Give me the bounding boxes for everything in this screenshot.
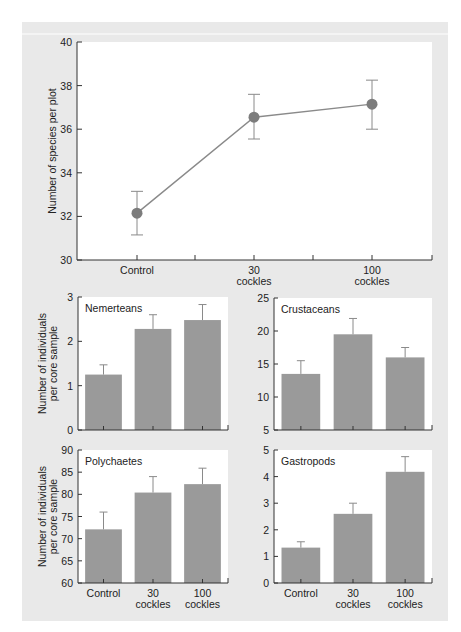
y-tick-label: 5 (263, 424, 269, 436)
y-tick-label: 40 (60, 36, 72, 48)
y-tick-label: 0 (67, 424, 73, 436)
bar (282, 548, 321, 583)
x-category-label: Control (284, 587, 318, 599)
y-tick-label: 65 (61, 555, 73, 567)
gastropods-bar-chart: Gastropods012345Control30cockles100cockl… (263, 444, 432, 610)
panel-title: Polychaetes (85, 455, 142, 467)
x-category-label: cockles (185, 598, 220, 610)
bar (334, 514, 373, 583)
y-tick-label: 85 (61, 466, 73, 478)
y-axis-title: Number of species per plot (46, 88, 58, 214)
y-tick-label: 0 (263, 577, 269, 589)
panel-title: Gastropods (281, 455, 335, 467)
data-point-marker (249, 112, 260, 123)
bar (85, 375, 122, 430)
data-point-marker (367, 99, 378, 110)
panel-title: Nemerteans (85, 302, 142, 314)
y-tick-label: 25 (257, 292, 269, 304)
y-tick-label: 4 (263, 471, 269, 483)
x-category-label: cockles (236, 275, 271, 287)
y-tick-label: 10 (257, 391, 269, 403)
bar (184, 320, 221, 430)
y-tick-label: 5 (263, 444, 269, 456)
bar (184, 484, 221, 583)
y-tick-label: 30 (60, 254, 72, 266)
y-axis-title-line2: per core sample (47, 326, 59, 401)
bar (135, 493, 172, 583)
polychaetes-bar-chart: Polychaetes60657075808590Number of indiv… (36, 444, 228, 610)
species-line-chart: 303234363840Control30cockles100cocklesNu… (46, 36, 432, 287)
y-tick-label: 38 (60, 80, 72, 92)
y-tick-label: 3 (67, 291, 73, 303)
panel-title: Crustaceans (281, 303, 340, 315)
bar (282, 374, 321, 430)
x-category-label: cockles (135, 598, 170, 610)
y-tick-label: 3 (263, 497, 269, 509)
data-point-marker (132, 208, 143, 219)
y-tick-label: 80 (61, 488, 73, 500)
y-tick-label: 70 (61, 533, 73, 545)
crustaceans-bar-chart: Crustaceans510152025 (257, 292, 432, 436)
y-tick-label: 34 (60, 167, 72, 179)
bar (386, 357, 425, 430)
bar (85, 529, 122, 583)
x-category-label: Control (120, 264, 154, 276)
y-tick-label: 36 (60, 123, 72, 135)
x-category-label: Control (87, 587, 121, 599)
figure: 303234363840Control30cockles100cocklesNu… (0, 0, 461, 632)
y-tick-label: 2 (263, 524, 269, 536)
y-tick-label: 15 (257, 358, 269, 370)
y-tick-label: 90 (61, 444, 73, 456)
bar (135, 329, 172, 430)
plot-area (77, 42, 432, 260)
y-tick-label: 2 (67, 335, 73, 347)
y-tick-label: 60 (61, 577, 73, 589)
bar (334, 334, 373, 430)
y-tick-label: 1 (263, 550, 269, 562)
y-tick-label: 75 (61, 511, 73, 523)
y-axis-title-line2: per core sample (47, 479, 59, 554)
y-tick-label: 20 (257, 325, 269, 337)
y-tick-label: 1 (67, 380, 73, 392)
nemerteans-bar-chart: Nemerteans0123Number of individualsper c… (36, 291, 228, 436)
y-tick-label: 32 (60, 210, 72, 222)
bar (386, 472, 425, 583)
x-category-label: cockles (335, 598, 370, 610)
x-category-label: cockles (388, 598, 423, 610)
x-category-label: cockles (354, 275, 389, 287)
